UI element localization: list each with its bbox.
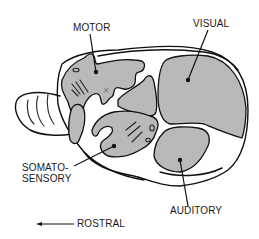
label-visual: VISUAL: [193, 18, 229, 29]
brain-diagram: ×: [0, 0, 259, 239]
label-motor: MOTOR: [73, 22, 111, 33]
rostral-arrow: [36, 222, 74, 226]
label-rostral: ROSTRAL: [77, 218, 125, 229]
olfactory-bulb: [16, 93, 72, 136]
label-somatosensory-2: SENSORY: [22, 173, 71, 184]
label-somatosensory-1: SOMATO-: [22, 162, 68, 173]
visual-region: [158, 55, 246, 138]
x-marker: ×: [103, 84, 109, 96]
label-auditory: AUDITORY: [170, 205, 222, 216]
auditory-region: [154, 127, 209, 172]
